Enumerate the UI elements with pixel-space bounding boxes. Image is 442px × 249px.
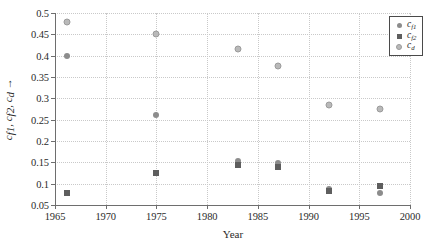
- y-axis-title-text: cf1, cf2, cd →: [2, 78, 16, 140]
- data-point-cd: [153, 31, 160, 38]
- gridline-horizontal: [55, 184, 410, 185]
- gridline-vertical: [258, 13, 259, 205]
- y-axis-tick-label: 0.45: [31, 29, 49, 40]
- gridline-vertical: [207, 13, 208, 205]
- data-point-cd: [325, 101, 332, 108]
- data-point-cd: [64, 19, 71, 26]
- data-point-cf2: [64, 190, 70, 196]
- legend-marker-cd-icon: [394, 44, 404, 50]
- gridline-horizontal: [55, 34, 410, 35]
- y-axis-tick-label: 0.15: [31, 157, 49, 168]
- x-axis-title: Year: [55, 228, 411, 240]
- data-point-cf2: [377, 183, 383, 189]
- x-axis-tick-label: 1995: [349, 211, 370, 222]
- x-axis-tick-label: 1990: [298, 211, 319, 222]
- y-axis-sub-f2: f2: [4, 108, 16, 117]
- chart-legend: cf1 cf2 cd: [389, 16, 423, 56]
- y-axis-tick-label: 0.5: [36, 8, 49, 19]
- legend-label-cd: cd: [407, 41, 415, 51]
- y-axis-sub-f1: f1: [4, 127, 16, 136]
- legend-marker-cf1-icon: [394, 23, 404, 28]
- y-axis-tick-label: 0.35: [31, 72, 49, 83]
- data-point-cd: [275, 63, 282, 70]
- x-axis-line: [55, 205, 411, 206]
- plot-area: 196519701975198019851990199520000.050.10…: [55, 13, 410, 205]
- gridline-vertical: [106, 13, 107, 205]
- legend-marker-cf2-icon: [394, 34, 404, 39]
- gridline-horizontal: [55, 98, 410, 99]
- x-axis-tick-label: 1975: [146, 211, 167, 222]
- y-axis-tick-label: 0.1: [36, 178, 49, 189]
- gridline-vertical: [156, 13, 157, 205]
- gridline-horizontal: [55, 141, 410, 142]
- data-point-cf2: [153, 170, 159, 176]
- gridline-horizontal: [55, 56, 410, 57]
- gridline-horizontal: [55, 162, 410, 163]
- data-point-cf1: [377, 190, 383, 196]
- x-axis-tick-label: 1965: [45, 211, 66, 222]
- y-axis-tick-label: 0.3: [36, 93, 49, 104]
- scatter-chart-figure: cf1, cf2, cd → 1965197019751980198519901…: [0, 0, 442, 249]
- y-axis-sub-d: d: [4, 92, 16, 98]
- data-point-cd: [376, 106, 383, 113]
- y-axis-title: cf1, cf2, cd →: [0, 13, 18, 205]
- gridline-horizontal: [55, 120, 410, 121]
- y-axis-tick-label: 0.2: [36, 136, 49, 147]
- y-axis-tick-label: 0.05: [31, 200, 49, 211]
- data-point-cf2: [275, 164, 281, 170]
- data-point-cf2: [326, 188, 332, 194]
- x-axis-tick-label: 1980: [197, 211, 218, 222]
- y-axis-line: [55, 13, 56, 206]
- data-point-cd: [234, 46, 241, 53]
- gridline-horizontal: [55, 77, 410, 78]
- gridline-vertical: [359, 13, 360, 205]
- data-point-cf1: [153, 112, 159, 118]
- y-axis-arrow-icon: →: [2, 78, 14, 89]
- x-axis-tick-label: 1970: [95, 211, 116, 222]
- legend-item-cd[interactable]: cd: [394, 42, 417, 52]
- gridline-horizontal: [55, 13, 410, 14]
- x-axis-tick-label: 2000: [400, 211, 421, 222]
- y-axis-tick-label: 0.25: [31, 114, 49, 125]
- legend-item-cf1[interactable]: cf1: [394, 21, 417, 31]
- y-axis-tick-label: 0.4: [36, 50, 49, 61]
- gridline-vertical: [309, 13, 310, 205]
- x-axis-tick-label: 1985: [248, 211, 269, 222]
- legend-item-cf2[interactable]: cf2: [394, 31, 417, 41]
- data-point-cf2: [235, 162, 241, 168]
- data-point-cf1: [64, 53, 70, 59]
